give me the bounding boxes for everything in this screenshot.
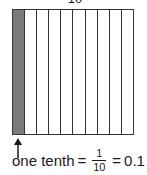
fraction-numerator: 1 [96, 148, 102, 159]
equals-sign: = [78, 152, 87, 169]
grid-column [49, 10, 61, 134]
caption-words: one tenth [12, 152, 75, 169]
caption: one tenth = 1 10 = 0.1 [12, 148, 145, 173]
grid-column [73, 10, 85, 134]
grid-column [86, 10, 98, 134]
grid-column [110, 10, 122, 134]
grid-column [61, 10, 73, 134]
grid-column [122, 10, 133, 134]
decimal-value: 0.1 [124, 152, 145, 169]
grid-column [37, 10, 49, 134]
fraction: 1 10 [92, 148, 106, 173]
fraction-denominator: 10 [93, 162, 105, 173]
grid-column-shaded [13, 10, 25, 134]
grid-column [25, 10, 37, 134]
equals-sign: = [112, 152, 121, 169]
tenths-grid [12, 9, 134, 135]
grid-column [98, 10, 110, 134]
top-label: 10 [60, 0, 90, 6]
